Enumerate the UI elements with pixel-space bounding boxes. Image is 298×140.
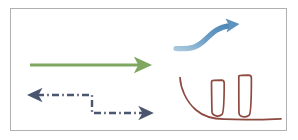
brown-loop-left bbox=[212, 80, 225, 116]
brown-loop-right bbox=[239, 75, 252, 117]
drawing-layer bbox=[0, 0, 298, 140]
brown-baseline-curve bbox=[180, 78, 281, 120]
navy-dash-dot-double-arrow bbox=[37, 95, 144, 113]
diagram-canvas bbox=[0, 0, 298, 140]
brown-freehand-sketch bbox=[180, 75, 281, 119]
blue-curved-rising-arrow bbox=[176, 26, 230, 49]
